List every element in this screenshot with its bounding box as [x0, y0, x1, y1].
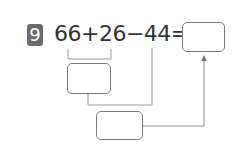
answer-box[interactable] [182, 22, 225, 52]
step2-box[interactable] [96, 111, 143, 140]
step1-box[interactable] [67, 63, 111, 94]
arrow-up-icon [202, 55, 207, 61]
